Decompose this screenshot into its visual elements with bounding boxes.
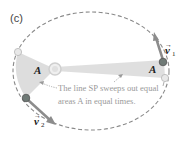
area-label-right: A [148, 63, 156, 75]
caption-line-1: The line SP sweeps out equal [58, 83, 159, 93]
planet-pointer-tick [163, 82, 164, 86]
panel-label: (c) [10, 12, 23, 24]
caption-line-2: areas A in equal times. [58, 96, 136, 106]
sun-icon [49, 63, 61, 75]
svg-text:1: 1 [172, 50, 176, 58]
svg-text:v: v [34, 115, 39, 127]
planet-left-bottom-icon [22, 94, 30, 102]
area-label-left: A [33, 64, 41, 76]
svg-text:v: v [165, 44, 170, 56]
svg-text:2: 2 [41, 121, 45, 129]
planet-right-bottom-icon [161, 74, 168, 81]
keplers-second-law-diagram: (c) A A → v 1 → v 2 The li [0, 0, 192, 142]
planet-right-top-icon [159, 58, 167, 66]
vector-label-v1: → v 1 [165, 41, 176, 58]
planet-left-top-icon [14, 48, 21, 55]
caption-pointer-left [42, 83, 57, 88]
